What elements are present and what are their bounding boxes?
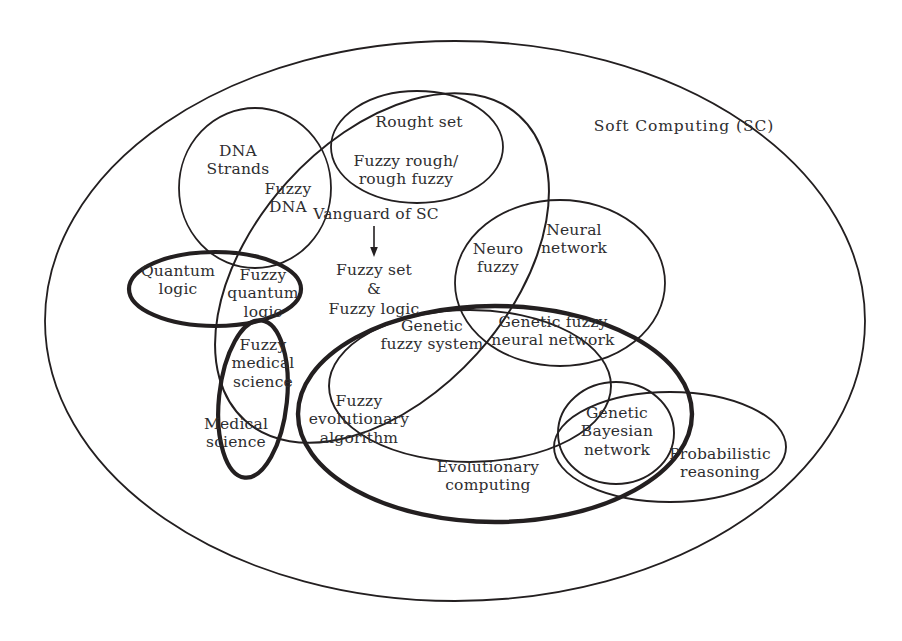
region-label-quantum-logic: Quantum logic bbox=[141, 262, 215, 299]
region-label-medical-science: Medical science bbox=[204, 415, 268, 452]
region-label-genetic-fuzzy-system: Genetic fuzzy system bbox=[381, 317, 484, 354]
fuzzy-logic-label: Fuzzy logic bbox=[329, 300, 420, 318]
vanguard-arrow-icon bbox=[370, 226, 378, 257]
soft-computing-title: Soft Computing (SC) bbox=[594, 117, 774, 135]
region-label-fuzzy-quantum-logic: Fuzzy quantum logic bbox=[227, 266, 298, 321]
region-label-rough-set: Rought set bbox=[375, 113, 462, 131]
ampersand-label: & bbox=[367, 280, 381, 298]
region-label-fuzzy-evolutionary-algorithm: Fuzzy evolutionary algorithm bbox=[309, 392, 410, 447]
soft-computing-venn-diagram: Soft Computing (SC) DNA Strands Fuzzy DN… bbox=[0, 0, 902, 641]
region-label-fuzzy-medical-science: Fuzzy medical science bbox=[231, 336, 294, 391]
region-label-genetic-bayesian-network: Genetic Bayesian network bbox=[581, 404, 653, 459]
region-label-evolutionary-computing: Evolutionary computing bbox=[437, 458, 540, 495]
region-label-neuro-fuzzy: Neuro fuzzy bbox=[473, 240, 523, 277]
region-label-genetic-fuzzy-neural-network: Genetic fuzzy neural network bbox=[491, 313, 614, 350]
vanguard-of-sc-label: Vanguard of SC bbox=[313, 205, 439, 223]
region-label-probabilistic-reasoning: Probabilistic reasoning bbox=[669, 445, 771, 482]
region-label-dna-strands: DNA Strands bbox=[207, 142, 270, 179]
fuzzy-set-label: Fuzzy set bbox=[336, 261, 412, 279]
region-label-fuzzy-dna: Fuzzy DNA bbox=[265, 180, 312, 217]
region-label-neural-network: Neural network bbox=[541, 221, 607, 258]
region-label-fuzzy-rough: Fuzzy rough/ rough fuzzy bbox=[353, 152, 458, 189]
